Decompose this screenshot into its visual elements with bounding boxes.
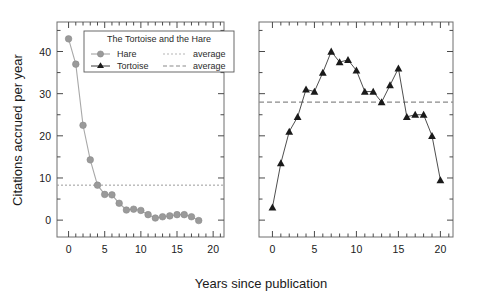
x-tick-label: 0 xyxy=(270,243,276,255)
x-tick-label: 15 xyxy=(171,243,183,255)
circle-marker xyxy=(116,200,123,207)
circle-marker xyxy=(188,213,195,220)
circle-marker xyxy=(65,36,72,43)
y-tick-label: 40 xyxy=(39,46,51,58)
circle-marker xyxy=(152,215,159,222)
circle-marker xyxy=(97,51,103,57)
circle-marker xyxy=(174,211,181,218)
x-tick-label: 0 xyxy=(66,243,72,255)
circle-marker xyxy=(195,217,202,224)
y-tick-label: 20 xyxy=(39,130,51,142)
circle-marker xyxy=(145,211,152,218)
circle-marker xyxy=(181,211,188,218)
circle-marker xyxy=(101,191,108,198)
legend-label-tortoise-average: average xyxy=(193,61,226,71)
x-tick-label: 15 xyxy=(393,243,405,255)
y-tick-label: 10 xyxy=(39,172,51,184)
circle-marker xyxy=(72,61,79,68)
circle-marker xyxy=(87,157,94,164)
x-axis-title: Years since publication xyxy=(195,276,328,291)
circle-marker xyxy=(159,213,166,220)
legend: The Tortoise and the Hare Hare average T… xyxy=(84,31,234,72)
x-tick-label: 5 xyxy=(312,243,318,255)
circle-marker xyxy=(138,207,145,214)
circle-marker xyxy=(94,182,101,189)
x-tick-label: 20 xyxy=(435,243,447,255)
circle-marker xyxy=(80,122,87,129)
circle-marker xyxy=(130,206,137,213)
legend-title: The Tortoise and the Hare xyxy=(107,34,211,44)
circle-marker xyxy=(123,207,130,214)
x-tick-label: 10 xyxy=(135,243,147,255)
x-tick-label: 20 xyxy=(207,243,219,255)
legend-label-hare: Hare xyxy=(117,49,137,59)
figure-background xyxy=(0,0,479,296)
y-tick-label: 30 xyxy=(39,88,51,100)
x-tick-label: 5 xyxy=(102,243,108,255)
circle-marker xyxy=(166,213,173,220)
x-tick-label: 10 xyxy=(351,243,363,255)
y-axis-title: Citations accrued per year xyxy=(10,53,25,205)
y-tick-label: 0 xyxy=(45,214,51,226)
legend-label-hare-average: average xyxy=(193,49,226,59)
legend-label-tortoise: Tortoise xyxy=(117,61,149,71)
figure-canvas: 010203040 05101520 05101520 Citations ac… xyxy=(0,0,479,296)
circle-marker xyxy=(109,192,116,199)
